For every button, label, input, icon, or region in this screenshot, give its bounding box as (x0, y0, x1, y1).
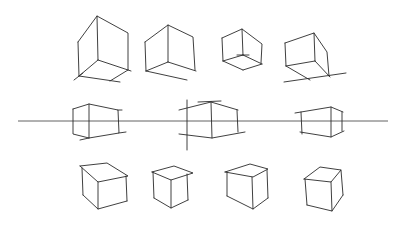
cube-horizon-3 (295, 107, 344, 137)
cube-above-3 (222, 29, 262, 70)
cube-below-2 (152, 166, 193, 208)
cube-above-4 (284, 33, 346, 82)
cube-above-1 (74, 16, 131, 82)
cube-below-4 (304, 167, 343, 211)
cube-below-3 (225, 164, 268, 209)
sketch-canvas (0, 0, 398, 230)
perspective-cubes-drawing (0, 0, 398, 230)
cube-horizon-1 (73, 104, 126, 140)
cube-above-2 (145, 25, 196, 80)
cube-horizon-2 (179, 100, 245, 150)
cube-below-1 (80, 163, 128, 209)
